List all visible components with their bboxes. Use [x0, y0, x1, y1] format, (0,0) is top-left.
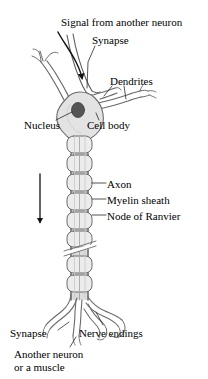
label-nucleus: Nucleus: [24, 119, 60, 132]
label-synapse-bottom: Synapse: [10, 327, 47, 340]
dendrite-left: [32, 49, 70, 100]
label-another-neuron-line1: Another neuron: [14, 348, 83, 361]
neuron-illustration: [0, 0, 208, 379]
label-nerve-endings: Nerve endings: [79, 327, 143, 340]
label-another-neuron-line2: or a muscle: [14, 361, 65, 374]
label-myelin-sheath: Myelin sheath: [107, 194, 170, 207]
dendrite-upper-right: [96, 88, 121, 99]
signal-arrow: [58, 32, 82, 78]
neuron-diagram: Signal from another neuron Synapse Dendr…: [0, 0, 208, 379]
label-signal-from-another-neuron: Signal from another neuron: [61, 16, 182, 29]
label-synapse-top: Synapse: [92, 34, 129, 47]
label-node-of-ranvier: Node of Ranvier: [107, 210, 180, 223]
label-axon: Axon: [107, 178, 131, 191]
label-cell-body: Cell body: [87, 119, 130, 132]
label-dendrites: Dendrites: [110, 75, 153, 88]
nucleus: [72, 103, 85, 118]
